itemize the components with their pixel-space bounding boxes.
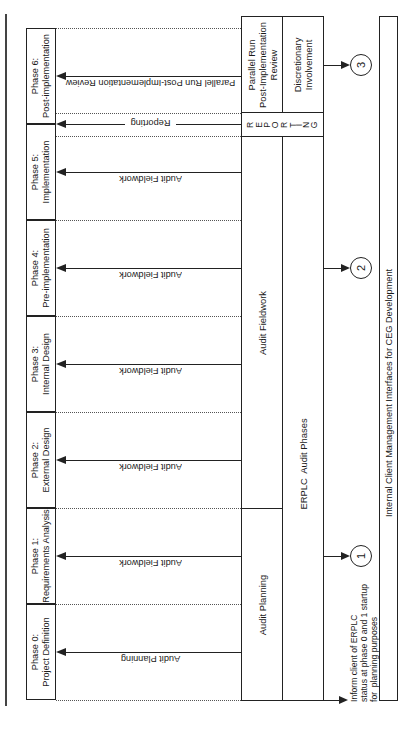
phase-3-subtitle: Internal Design <box>41 316 52 412</box>
inform-client-note: Inform client of ERPLC status at phase 0… <box>349 584 379 702</box>
arrow-line <box>60 268 241 269</box>
phase-4-subtitle: Pre-implementation <box>41 220 52 316</box>
dotted-separator <box>56 136 241 137</box>
phase-3-title: Phase 3: <box>30 316 41 412</box>
reporting-letter: G <box>310 121 320 128</box>
arrow-line <box>60 460 241 461</box>
parallel-run-box: Parallel Run Post-Implementation Review <box>241 16 283 113</box>
discretionary-line2: Involvement <box>303 17 314 113</box>
phase-1-box: Phase 1:Requirements Analysis <box>26 508 56 604</box>
circle-marker-2: 2 <box>350 257 372 279</box>
dotted-separator <box>56 220 241 221</box>
phase-6-subtitle: Post-implementation <box>41 28 52 124</box>
phase-5-title: Phase 5: <box>30 124 41 220</box>
dotted-separator <box>56 508 241 509</box>
arrow-line <box>60 172 241 173</box>
phase-0-subtitle: Project Definition <box>41 604 52 700</box>
erplc-audit-phases-label: ERPLC Audit Phases <box>298 418 309 509</box>
audit-fieldwork-box: Audit Fieldwork <box>241 136 283 509</box>
phase-3-box: Phase 3:Internal Design <box>26 316 56 412</box>
phase-1-subtitle: Requirements Analysis <box>41 508 52 604</box>
ceg-development-box: Internal Client Management Interfaces fo… <box>379 16 398 701</box>
parallel-run-line1: Parallel Run <box>246 17 257 113</box>
note-line3: for planning purposes <box>369 584 379 702</box>
phase-0-title: Phase 0: <box>30 604 41 700</box>
phase-0-box: Phase 0:Project Definition <box>26 604 56 700</box>
arrow-label: Audit Fieldwork <box>60 174 241 184</box>
note-connector-line <box>324 700 340 701</box>
phase-5-subtitle: Implementation <box>41 124 52 220</box>
reporting-box: R E P O R T I N G <box>241 112 324 137</box>
arrow-line <box>60 364 241 365</box>
arrow-line <box>60 652 241 653</box>
circle-marker-1: 1 <box>350 545 372 567</box>
connector-line <box>324 268 342 269</box>
dotted-separator <box>56 412 241 413</box>
dotted-separator <box>56 28 241 29</box>
arrow-line <box>60 76 241 77</box>
erplc-audit-phases-box: ERPLC Audit Phases <box>282 136 324 701</box>
connector-line <box>324 556 342 557</box>
dotted-separator <box>56 316 241 317</box>
audit-planning-label: Audit Planning <box>257 574 268 634</box>
arrow-label: Audit Fieldwork <box>60 462 241 472</box>
arrow-label: Parallel Run Post-Implementation Review <box>60 78 241 88</box>
connector-line <box>324 65 342 66</box>
parallel-run-line3: Review <box>268 17 279 113</box>
phase-2-subtitle: External Design <box>41 412 52 508</box>
note-line1: Inform client of ERPLC <box>349 584 359 702</box>
arrow-label: Audit Fieldwork <box>60 366 241 376</box>
discretionary-line1: Discretionary <box>292 17 303 113</box>
phase-6-box: Phase 6:Post-implementation <box>26 28 56 124</box>
page-edge-line <box>5 14 7 706</box>
dotted-separator <box>56 113 241 114</box>
audit-planning-box: Audit Planning <box>241 508 283 701</box>
arrow-head-right-icon <box>341 552 350 560</box>
arrow-label: Audit Planning <box>60 654 241 664</box>
phase-5-box: Phase 5:Implementation <box>26 124 56 220</box>
circle-marker-3: 3 <box>350 54 372 76</box>
phase-4-box: Phase 4:Pre-implementation <box>26 220 56 316</box>
phase-1-title: Phase 1: <box>30 508 41 604</box>
discretionary-involvement-box: Discretionary Involvement <box>282 16 324 113</box>
phase-2-box: Phase 2:External Design <box>26 412 56 508</box>
phase-4-title: Phase 4: <box>30 220 41 316</box>
audit-fieldwork-label: Audit Fieldwork <box>257 290 268 354</box>
reporting-arrow-label: Reporting <box>60 118 241 128</box>
dotted-separator <box>56 604 241 605</box>
phase-2-title: Phase 2: <box>30 412 41 508</box>
note-line2: status at phase 0 and 1 startup <box>359 584 369 702</box>
arrow-line <box>60 556 241 557</box>
arrow-label: Audit Fieldwork <box>60 558 241 568</box>
parallel-run-line2: Post-Implementation <box>257 17 268 113</box>
ceg-development-label: Internal Client Management Interfaces fo… <box>383 269 394 517</box>
dotted-separator <box>56 700 241 701</box>
arrow-label: Audit Fieldwork <box>60 270 241 280</box>
arrow-head-right-icon <box>341 264 350 272</box>
arrow-head-right-icon <box>341 61 350 69</box>
phase-6-title: Phase 6: <box>30 28 41 124</box>
arrow-head-right-icon <box>339 696 348 704</box>
